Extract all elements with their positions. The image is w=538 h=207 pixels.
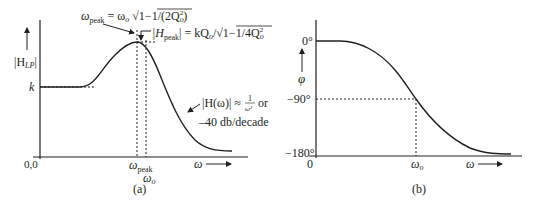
rolloff-formula-line2: –40 db/decade — [198, 115, 269, 129]
rolloff-pointer-arrow-icon — [188, 104, 200, 112]
tick-0-deg: 0° — [302, 34, 313, 48]
origin-label: 0,0 — [24, 158, 38, 170]
rolloff-formula-line1: |H(ω)| ≈ — [202, 96, 241, 110]
x-axis-label: ω — [194, 157, 202, 171]
origin-label: 0 — [307, 157, 313, 171]
x-axis-label: ω — [466, 157, 474, 171]
panel-b-phase-plot: 0° −90° −180° 0 φ ωo ω (b) — [285, 20, 522, 196]
caption-b: (b) — [412, 182, 426, 196]
x-tick-omega-o: ωo — [411, 157, 423, 172]
omega-peak-formula: ωpeak = ωo √1−1/(2Qo2) — [81, 9, 187, 25]
y-axis-label: |HLP| — [14, 55, 37, 70]
y-axis-label: φ — [298, 71, 305, 86]
figure-canvas: |HLP| k 0,0 ωpeak ωo ω (a) ωpeak = ωo √1… — [0, 0, 538, 207]
rolloff-frac-den: ω² — [245, 105, 253, 113]
h-peak-pointer-arrow-icon — [141, 31, 151, 40]
panel-a-magnitude-plot: |HLP| k 0,0 ωpeak ωo ω (a) ωpeak = ωo √1… — [14, 9, 272, 196]
h-peak-formula: |Hpeak| = kQo/√1−1/4Qo2 — [152, 26, 264, 42]
tick-minus-90-deg: −90° — [287, 92, 311, 106]
omega-peak-pointer-arrow-icon — [103, 24, 134, 33]
caption-a: (a) — [133, 182, 146, 196]
rolloff-frac-num: 1 — [248, 94, 252, 103]
rolloff-or: or — [258, 96, 268, 110]
k-label: k — [29, 80, 35, 94]
phase-curve — [316, 41, 511, 154]
